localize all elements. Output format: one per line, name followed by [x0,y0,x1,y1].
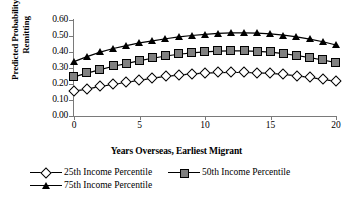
data-point-marker [305,53,314,62]
data-point-marker [332,41,340,48]
data-point-marker [174,49,183,58]
y-tick-label: 0.50 [36,31,68,41]
data-point-marker [213,46,222,55]
legend-row: 25th Income Percentile50th Income Percen… [0,166,353,179]
legend-label: 50th Income Percentile [202,166,290,179]
legend-label: 75th Income Percentile [64,179,152,192]
data-point-marker [82,68,91,77]
legend-marker-icon [30,166,62,179]
data-point-marker [200,47,209,56]
data-point-marker [161,51,170,60]
data-point-marker [253,47,262,56]
y-tick-label: 0.10 [36,95,68,105]
data-point-marker [253,29,261,36]
data-point-marker [187,48,196,57]
data-point-marker [148,37,156,44]
y-axis-title-line2: Remitting [21,16,31,54]
legend-item[interactable]: 50th Income Percentile [168,166,290,179]
legend-item[interactable]: 25th Income Percentile [30,166,152,179]
data-point-marker [240,46,249,55]
y-axis-title: Predicted Probability of Remitting [10,0,32,94]
y-tick-label: 0.40 [36,47,68,57]
data-point-marker [109,45,117,52]
x-tick-label: 0 [62,120,86,130]
data-point-marker [135,39,143,46]
data-point-marker [279,32,287,39]
y-tick-label: 0.20 [36,79,68,89]
data-point-marker [95,65,104,74]
data-point-marker [148,53,157,62]
data-point-marker [226,46,235,55]
data-point-marker [188,32,196,39]
x-tick-label: 20 [324,120,348,130]
plot-area [74,20,336,116]
data-point-marker [331,58,340,67]
chart-legend: 25th Income Percentile50th Income Percen… [0,166,353,192]
legend-row: 75th Income Percentile [0,179,353,192]
data-point-marker [214,30,222,37]
data-point-marker [96,48,104,55]
data-point-marker [122,59,131,68]
x-axis-title: Years Overseas, Earliest Migrant [0,146,353,156]
data-point-marker [69,72,78,81]
data-point-marker [266,47,275,56]
data-point-marker [227,29,235,36]
chart-figure: Predicted Probability of Remitting 0.000… [0,0,353,209]
data-point-marker [135,56,144,65]
x-tick-label: 15 [259,120,283,130]
y-axis-title-line1: Predicted Probability of [10,0,20,80]
data-point-marker [201,31,209,38]
data-point-marker [161,35,169,42]
data-point-marker [306,35,314,42]
y-tick-label: 0.30 [36,63,68,73]
data-point-marker [70,58,78,65]
data-point-marker [266,30,274,37]
data-point-marker [175,33,183,40]
data-point-marker [240,29,248,36]
x-tick-label: 10 [193,120,217,130]
data-point-marker [109,61,118,70]
x-tick-label: 5 [128,120,152,130]
data-point-marker [292,33,300,40]
data-point-marker [292,51,301,60]
legend-marker-icon [168,166,200,179]
y-tick-label: 0.60 [36,15,68,25]
data-point-marker [83,53,91,60]
data-point-marker [319,38,327,45]
data-point-marker [122,42,130,49]
legend-item[interactable]: 75th Income Percentile [30,179,152,192]
data-point-marker [279,49,288,58]
legend-marker-icon [30,179,62,192]
legend-label: 25th Income Percentile [64,166,152,179]
data-point-marker [318,55,327,64]
